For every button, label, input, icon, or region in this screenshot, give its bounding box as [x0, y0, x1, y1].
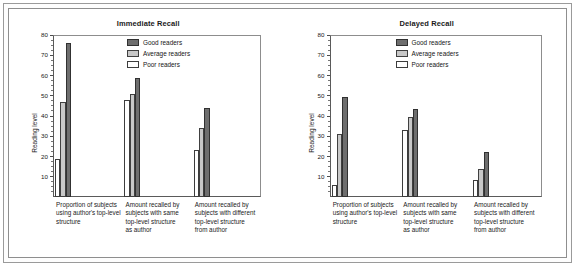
legend-item-good: Good readers: [396, 37, 459, 47]
bar-good: [135, 78, 140, 197]
x-axis-label-line: from author: [195, 226, 262, 234]
panel-delayed-recall: Delayed Recall Reading level 10203040506…: [288, 9, 567, 257]
x-axis-label-line: top-level structure: [403, 218, 472, 226]
panel-title: Delayed Recall: [288, 19, 567, 28]
x-axis-label: Amount recalled bysubjects with differen…: [474, 201, 543, 234]
x-axis-label-line: subjects with different: [195, 209, 262, 217]
y-tick-label: 20: [318, 153, 325, 160]
legend-swatch-good: [396, 39, 408, 46]
x-axis-label-line: Amount recalled by: [474, 201, 543, 209]
legend: Good readersAverage readersPoor readers: [127, 37, 190, 70]
x-axis-label-line: using author's top-level: [56, 209, 123, 217]
y-tick-label: 80: [318, 31, 325, 38]
chart-panels: Immediate Recall Reading level 102030405…: [9, 9, 566, 257]
y-tick-label: 40: [318, 112, 325, 119]
y-tick-label: 80: [41, 31, 48, 38]
x-axis-label-line: Amount recalled by: [195, 201, 262, 209]
y-tick-label: 50: [318, 92, 325, 99]
legend-label: Good readers: [143, 39, 182, 46]
x-axis-labels: Proportion of subjectsusing author's top…: [53, 201, 261, 261]
figure-inner-border: Immediate Recall Reading level 102030405…: [8, 8, 567, 258]
panel-title: Immediate Recall: [9, 19, 288, 28]
x-axis-label: Proportion of subjectsusing author's top…: [56, 201, 123, 226]
y-tick-label: 40: [41, 112, 48, 119]
x-axis-label-line: top-level structure: [195, 218, 262, 226]
y-tick-label: 70: [41, 51, 48, 58]
x-axis-label-line: subjects with different: [474, 209, 543, 217]
legend-item-good: Good readers: [127, 37, 190, 47]
y-tick-label: 60: [318, 72, 325, 79]
bar-good: [204, 108, 209, 197]
y-tick-label: 10: [318, 173, 325, 180]
legend: Good readersAverage readersPoor readers: [396, 37, 459, 70]
legend-swatch-average: [127, 50, 139, 57]
bar-good: [413, 109, 418, 197]
y-tick-label: 30: [318, 132, 325, 139]
figure-outer-border: Immediate Recall Reading level 102030405…: [3, 3, 572, 263]
y-tick-label: 70: [318, 51, 325, 58]
legend-item-average: Average readers: [396, 48, 459, 58]
x-axis-label-line: from author: [474, 226, 543, 234]
y-tick-label: 20: [41, 153, 48, 160]
y-axis-label: Reading level: [308, 113, 315, 152]
y-tick-label: 10: [41, 173, 48, 180]
legend-label: Good readers: [412, 39, 451, 46]
legend-swatch-poor: [127, 61, 139, 68]
legend-swatch-poor: [396, 61, 408, 68]
legend-label: Average readers: [412, 50, 459, 57]
x-axis-label: Amount recalled bysubjects with differen…: [195, 201, 262, 234]
x-axis-label-line: as author: [403, 226, 472, 234]
x-axis-label-line: structure: [333, 218, 402, 226]
bar-group: [471, 35, 542, 197]
x-axis-label-line: Proportion of subjects: [56, 201, 123, 209]
bar-good: [484, 152, 489, 197]
x-axis-label-line: structure: [56, 218, 123, 226]
bar-group: [330, 35, 401, 197]
x-axis-label: Amount recalled bysubjects with sametop-…: [403, 201, 472, 234]
legend-item-poor: Poor readers: [127, 59, 190, 69]
x-axis-label-line: subjects with same: [403, 209, 472, 217]
x-axis-label-line: using author's top-level: [333, 209, 402, 217]
bar-group: [53, 35, 122, 197]
x-axis-label-line: top-level structure: [474, 218, 543, 226]
legend-item-poor: Poor readers: [396, 59, 459, 69]
y-axis-label: Reading level: [31, 113, 38, 152]
y-tick-label: 60: [41, 72, 48, 79]
x-axis-label-line: subjects with same: [125, 209, 192, 217]
legend-label: Average readers: [143, 50, 190, 57]
x-axis-label: Proportion of subjectsusing author's top…: [333, 201, 402, 226]
legend-label: Poor readers: [412, 61, 449, 68]
x-axis-label-line: as author: [125, 226, 192, 234]
legend-swatch-average: [396, 50, 408, 57]
legend-swatch-good: [127, 39, 139, 46]
x-axis-label-line: top-level structure: [125, 218, 192, 226]
bar-good: [66, 43, 71, 197]
x-axis-labels: Proportion of subjectsusing author's top…: [330, 201, 542, 261]
x-axis-label-line: Amount recalled by: [125, 201, 192, 209]
bar-group: [192, 35, 261, 197]
panel-immediate-recall: Immediate Recall Reading level 102030405…: [9, 9, 288, 257]
legend-item-average: Average readers: [127, 48, 190, 58]
x-axis-label-line: Proportion of subjects: [333, 201, 402, 209]
x-axis-label-line: Amount recalled by: [403, 201, 472, 209]
x-axis-label: Amount recalled bysubjects with sametop-…: [125, 201, 192, 234]
y-tick-label: 30: [41, 132, 48, 139]
legend-label: Poor readers: [143, 61, 180, 68]
y-tick-label: 50: [41, 92, 48, 99]
bar-good: [342, 97, 347, 197]
